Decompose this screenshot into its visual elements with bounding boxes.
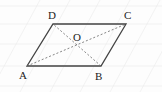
parallelogram-diagram: D C O A B xyxy=(0,0,162,92)
vertex-label-c: C xyxy=(124,10,131,21)
vertex-label-a: A xyxy=(19,70,27,81)
center-label-o: O xyxy=(73,32,81,43)
vertex-label-d: D xyxy=(48,10,56,21)
vertex-label-b: B xyxy=(95,71,102,82)
